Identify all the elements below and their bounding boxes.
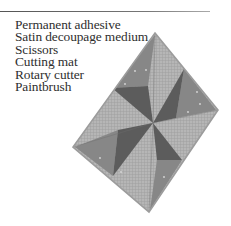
material-item: Paintbrush bbox=[15, 81, 148, 93]
materials-list: Permanent adhesive Satin decoupage mediu… bbox=[15, 19, 148, 93]
